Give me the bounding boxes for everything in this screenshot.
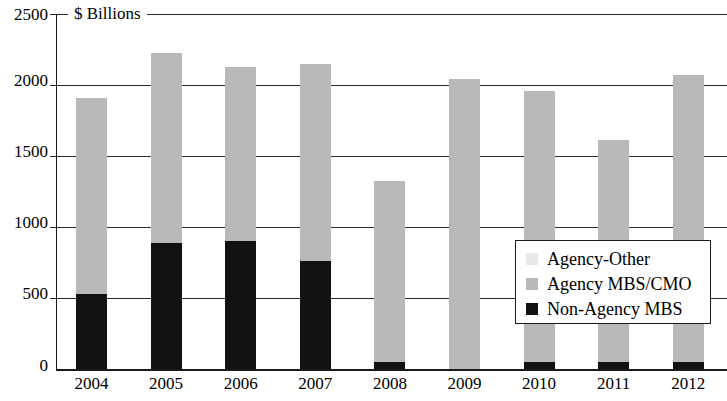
- bar-segment: [524, 362, 555, 369]
- bar-segment: [300, 64, 331, 261]
- legend-item: Agency-Other: [526, 246, 710, 271]
- x-tick-label: 2004: [62, 372, 122, 396]
- stacked-bar-chart: 2500 2000 1500 1000 500 0 $ Billions 200…: [0, 0, 727, 401]
- x-tick-label: 2009: [435, 372, 495, 396]
- bar-group: [300, 64, 331, 369]
- x-tick-label: 2011: [584, 372, 644, 396]
- bar-segment: [225, 241, 256, 370]
- bar-segment: [76, 294, 107, 369]
- y-tick-label: 1500: [14, 143, 48, 160]
- bar-segment: [374, 362, 405, 369]
- legend-label: Agency-Other: [547, 249, 650, 269]
- unit-caption: $ Billions: [68, 4, 147, 23]
- bar-segment: [151, 243, 182, 369]
- legend-label: Agency MBS/CMO: [547, 274, 692, 294]
- bar-group: [449, 79, 480, 369]
- x-tick-label: 2005: [136, 372, 196, 396]
- gridline-2500: [56, 14, 727, 15]
- y-tick-label: 0: [40, 357, 49, 374]
- bar-segment: [151, 53, 182, 243]
- y-tick-label: 2500: [14, 6, 48, 23]
- bar-group: [673, 75, 704, 369]
- bar-segment: [374, 181, 405, 362]
- bar-segment: [76, 98, 107, 294]
- y-tick-label: 500: [23, 285, 49, 302]
- x-axis-tick-labels: 200420052006200720082009201020112012: [56, 372, 727, 400]
- x-tick-label: 2008: [360, 372, 420, 396]
- legend-label: Non-Agency MBS: [547, 299, 683, 319]
- x-tick-label: 2007: [285, 372, 345, 396]
- legend-item: Agency MBS/CMO: [526, 271, 710, 296]
- bar-group: [225, 67, 256, 369]
- y-tick-label: 2000: [14, 72, 48, 89]
- x-tick-label: 2012: [658, 372, 718, 396]
- bar-group: [151, 53, 182, 369]
- bar-group: [374, 181, 405, 369]
- legend-item: Non-Agency MBS: [526, 296, 710, 321]
- y-tick-label: 1000: [14, 214, 48, 231]
- x-axis-line: [56, 369, 727, 371]
- bar-segment: [673, 362, 704, 369]
- bar-group: [76, 98, 107, 369]
- x-tick-label: 2010: [509, 372, 569, 396]
- bar-segment: [300, 261, 331, 369]
- legend-swatch-non-agency-mbs: [526, 303, 538, 315]
- bar-segment: [449, 79, 480, 369]
- x-tick-label: 2006: [211, 372, 271, 396]
- bar-segment: [598, 362, 629, 369]
- legend-swatch-agency-other: [526, 253, 538, 265]
- y-axis-tick-labels: 2500 2000 1500 1000 500 0: [0, 0, 52, 401]
- bar-segment: [225, 67, 256, 241]
- bar-group: [524, 91, 555, 369]
- legend-swatch-agency-mbs-cmo: [526, 278, 538, 290]
- chart-legend: Agency-Other Agency MBS/CMO Non-Agency M…: [515, 240, 711, 324]
